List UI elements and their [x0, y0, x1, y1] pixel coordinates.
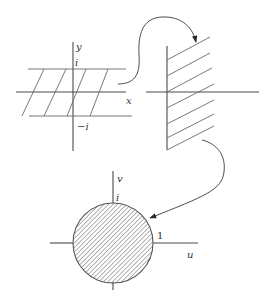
u-axis-label: u — [187, 249, 193, 260]
v-axis-label: v — [117, 173, 123, 184]
y-axis-label: y — [75, 41, 82, 52]
mapping-diagram: y i x −i v i 1 u — [0, 0, 275, 298]
half-plane-panel — [146, 37, 259, 150]
strip-panel: y i x −i — [16, 41, 132, 151]
right-label-one: 1 — [157, 230, 163, 241]
x-axis-label: x — [126, 95, 132, 106]
arrow-halfplane-to-disk — [150, 140, 224, 218]
upper-bound-label: i — [75, 57, 78, 68]
top-label-i: i — [116, 192, 119, 203]
unit-disk — [73, 203, 153, 283]
half-plane-hatching — [167, 37, 214, 150]
lower-bound-label: −i — [77, 121, 89, 132]
disk-panel: v i 1 u — [50, 171, 198, 290]
